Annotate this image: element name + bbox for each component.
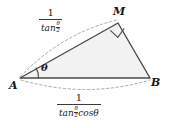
cos-theta-term: cosθ [78, 108, 99, 118]
vertex-label-B: B [151, 77, 160, 88]
side-AB-denominator: tanθ2cosθ [57, 105, 101, 119]
geometry-figure: A M B θ 1 tanθ2 1 tanθ2cosθ [0, 0, 169, 128]
side-AM-numerator: 1 [39, 8, 62, 19]
side-AM-length-label: 1 tanθ2 [39, 8, 62, 34]
side-AM-denominator: tanθ2 [39, 20, 62, 34]
two-denominator-am: 2 [56, 28, 60, 34]
theta-over-two-am: θ2 [56, 21, 60, 34]
vertex-label-A: A [9, 80, 18, 91]
tan-function-ab: tan [59, 108, 74, 118]
tan-function-am: tan [41, 23, 56, 33]
theta-numerator-am: θ [56, 21, 60, 27]
vertex-label-M: M [113, 6, 125, 17]
side-AB-length-label: 1 tanθ2cosθ [57, 93, 101, 119]
angle-label-theta: θ [41, 63, 48, 73]
side-AB-numerator: 1 [57, 93, 101, 104]
measure-arc-AB [21, 80, 150, 90]
